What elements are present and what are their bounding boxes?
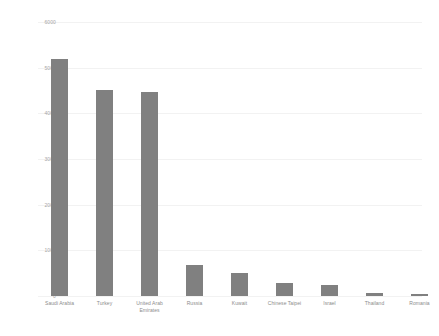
bar-romania[interactable] [411, 294, 428, 296]
bar-russia[interactable] [186, 265, 203, 296]
bar-thailand[interactable] [366, 293, 383, 296]
xtick-label-kuwait: Kuwait [218, 300, 262, 307]
xtick-label-romania: Romania [398, 300, 439, 307]
bar-chart: 6000 5000 4000 3000 2000 1000 0 Saudi Ar… [0, 0, 439, 336]
bar-chinese-taipei[interactable] [276, 283, 293, 296]
xtick-label-united-arab-emirates: United Arab Emirates [128, 300, 172, 314]
xtick-label-saudi-arabia: Saudi Arabia [38, 300, 82, 307]
bar-israel[interactable] [321, 285, 338, 296]
bar-saudi-arabia[interactable] [51, 59, 68, 296]
xtick-label-israel: Israel [308, 300, 352, 307]
bar-united-arab-emirates[interactable] [141, 92, 158, 296]
xtick-label-thailand: Thailand [353, 300, 397, 307]
bars-layer [0, 0, 439, 336]
bar-kuwait[interactable] [231, 273, 248, 296]
xtick-label-turkey: Turkey [83, 300, 127, 307]
xtick-label-russia: Russia [173, 300, 217, 307]
xtick-label-chinese-taipei: Chinese Taipei [263, 300, 307, 307]
bar-turkey[interactable] [96, 90, 113, 296]
